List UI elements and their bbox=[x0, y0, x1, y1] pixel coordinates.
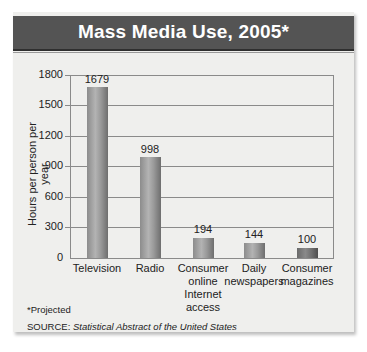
bar-value-radio: 998 bbox=[130, 143, 170, 155]
source-title: Statistical Abstract of the United State… bbox=[73, 321, 237, 332]
category-label-magazines: Consumer magazines bbox=[272, 262, 342, 288]
bar-magazines bbox=[297, 248, 318, 258]
y-tick: 900 bbox=[23, 159, 63, 171]
bar-value-television: 1679 bbox=[77, 73, 117, 85]
source-note: SOURCE: Statistical Abstract of the Unit… bbox=[27, 321, 237, 332]
category-line: magazines bbox=[272, 275, 342, 288]
bar-value-newspapers: 144 bbox=[234, 228, 274, 240]
y-tick: 1800 bbox=[23, 68, 63, 80]
y-tick: 600 bbox=[23, 190, 63, 202]
plot-area: 1679 998 194 144 100 bbox=[70, 75, 334, 259]
category-line: Internet bbox=[168, 288, 238, 301]
bar-radio bbox=[140, 157, 161, 258]
chart-card: Mass Media Use, 2005* Hours per person p… bbox=[13, 12, 354, 332]
chart-header: Mass Media Use, 2005* bbox=[13, 16, 354, 51]
footnote-projected: *Projected bbox=[27, 304, 71, 315]
bar-television bbox=[87, 87, 108, 258]
category-line: access bbox=[168, 301, 238, 314]
y-tick: 1200 bbox=[23, 129, 63, 141]
bar-internet bbox=[193, 238, 214, 258]
y-tick: 1500 bbox=[23, 98, 63, 110]
category-line: Consumer bbox=[272, 262, 342, 275]
bar-newspapers bbox=[244, 243, 265, 258]
source-prefix: SOURCE: bbox=[27, 321, 73, 332]
bar-value-internet: 194 bbox=[183, 223, 223, 235]
y-tick: 300 bbox=[23, 220, 63, 232]
y-tick: 0 bbox=[23, 251, 63, 263]
chart-title: Mass Media Use, 2005* bbox=[13, 21, 354, 43]
header-divider bbox=[13, 52, 354, 53]
bar-value-magazines: 100 bbox=[287, 233, 327, 245]
